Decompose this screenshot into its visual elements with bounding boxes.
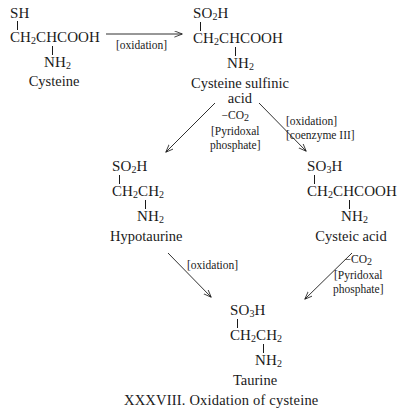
- label-cysteine-to-sulfinic: [oxidation]: [116, 38, 167, 52]
- hypotaurine-amine-sub: 2: [159, 215, 164, 226]
- sulfinic-sulfinyl-group: SO2H: [193, 6, 289, 22]
- cysteine-bond-thiol: [10, 21, 100, 30]
- taurine-label: Taurine: [228, 373, 282, 388]
- sulfinic-top-suffix: H: [217, 5, 228, 21]
- co2-sub-right: 2: [367, 256, 372, 267]
- cysteic-backbone-suffix: CHCOOH: [333, 183, 397, 199]
- co2-prefix-left: −CO: [222, 109, 244, 121]
- taurine-amine: NH2: [230, 353, 282, 369]
- compound-cysteine: SH CH2CHCOOH NH2 Cysteine: [10, 6, 100, 89]
- cysteine-backbone-prefix: CH: [10, 29, 31, 45]
- taurine-amine-sub: 2: [277, 359, 282, 370]
- taurine-top-prefix: SO: [230, 302, 249, 318]
- sulfinic-label-line1: Cysteine sulfinic: [191, 76, 289, 91]
- sulfinic-backbone-suffix: CHCOOH: [219, 30, 283, 46]
- label-hypotaurine-to-taurine: [oxidation]: [187, 258, 238, 272]
- hypotaurine-backbone-prefix: CH: [112, 183, 133, 199]
- cysteic-top-prefix: SO: [307, 158, 326, 174]
- label-phosphate-left: phosphate]: [210, 138, 260, 152]
- hypotaurine-label: Hypotaurine: [110, 229, 182, 244]
- hypotaurine-bond-amine: [112, 200, 182, 209]
- sulfinic-top-prefix: SO: [193, 5, 212, 21]
- cysteic-sulfonyl-group: SO3H: [307, 159, 397, 175]
- sulfinic-amine: NH2: [193, 56, 289, 72]
- cysteic-amine: NH2: [307, 209, 397, 225]
- sulfinic-amine-sub: 2: [249, 62, 254, 73]
- caption-text: Oxidation of cysteine: [189, 392, 318, 408]
- cysteine-label: Cysteine: [8, 74, 100, 89]
- arrow-sulfinic-to-hypotaurine: [166, 103, 215, 152]
- hypotaurine-backbone: CH2CH2: [112, 184, 182, 200]
- co2-sub-left: 2: [244, 112, 249, 123]
- label-sulfinic-to-hypotaurine: −CO2 [Pyridoxal phosphate]: [210, 108, 260, 152]
- cysteine-backbone-suffix: CHCOOH: [36, 29, 100, 45]
- hypotaurine-bond-top: [112, 175, 182, 184]
- label-co2-line1-left: −CO2: [222, 109, 249, 121]
- cysteic-bond-top: [307, 175, 397, 184]
- hypotaurine-backbone-mid: CH: [138, 183, 159, 199]
- sulfinic-label-line2: acid: [191, 91, 289, 106]
- cysteic-backbone: CH2CHCOOH: [307, 184, 397, 200]
- cysteine-thiol-group: SH: [10, 6, 100, 21]
- figure-caption: XXXVIII. Oxidation of cysteine: [124, 392, 318, 409]
- taurine-bond-amine: [230, 344, 282, 353]
- label-oxidation-coenzyme-line2: [coenzyme III]: [286, 128, 355, 142]
- taurine-sulfonyl-group: SO3H: [230, 303, 282, 319]
- label-oxidation-coenzyme-line1: [oxidation]: [286, 115, 337, 127]
- sulfinic-bond-amine: [193, 47, 289, 56]
- cysteic-top-suffix: H: [331, 158, 342, 174]
- cysteine-bond-amine: [10, 46, 100, 55]
- cysteine-amine: NH2: [10, 55, 100, 71]
- label-pyridoxal-right: [Pyridoxal: [333, 268, 383, 282]
- sulfinic-backbone-prefix: CH: [193, 30, 214, 46]
- taurine-bond-top: [230, 319, 282, 328]
- hypotaurine-amine-prefix: NH: [137, 208, 159, 224]
- label-sulfinic-to-cysteic: [oxidation] [coenzyme III]: [286, 114, 355, 142]
- label-cysteic-to-taurine: −CO2 [Pyridoxal phosphate]: [333, 252, 383, 296]
- cysteic-backbone-prefix: CH: [307, 183, 328, 199]
- compound-taurine: SO3H CH2CH2 NH2 Taurine: [230, 303, 282, 387]
- cysteine-amine-sub: 2: [66, 60, 71, 71]
- cysteine-backbone: CH2CHCOOH: [10, 30, 100, 46]
- taurine-backbone: CH2CH2: [230, 328, 282, 344]
- cysteic-amine-prefix: NH: [341, 208, 363, 224]
- hypotaurine-backbone-sub2: 2: [159, 189, 164, 200]
- cysteine-amine-prefix: NH: [44, 54, 66, 70]
- sulfinic-bond-top: [193, 22, 289, 31]
- label-co2-line1-right: −CO2: [345, 253, 372, 265]
- taurine-backbone-sub2: 2: [277, 333, 282, 344]
- compound-cysteine-sulfinic-acid: SO2H CH2CHCOOH NH2 Cysteine sulfinic aci…: [193, 6, 289, 106]
- cysteic-bond-amine: [307, 200, 397, 209]
- taurine-backbone-mid: CH: [256, 327, 277, 343]
- cysteic-label: Cysteic acid: [305, 229, 397, 244]
- compound-hypotaurine: SO2H CH2CH2 NH2 Hypotaurine: [112, 159, 182, 243]
- hypotaurine-sulfinyl-group: SO2H: [112, 159, 182, 175]
- co2-prefix-right: −CO: [345, 253, 367, 265]
- taurine-amine-prefix: NH: [255, 352, 277, 368]
- hypotaurine-amine: NH2: [112, 209, 182, 225]
- caption-number: XXXVIII.: [124, 392, 186, 408]
- taurine-backbone-prefix: CH: [230, 327, 251, 343]
- label-pyridoxal-left: [Pyridoxal: [210, 124, 260, 138]
- compound-cysteic-acid: SO3H CH2CHCOOH NH2 Cysteic acid: [307, 159, 397, 243]
- hypotaurine-top-suffix: H: [136, 158, 147, 174]
- sulfinic-amine-prefix: NH: [227, 55, 249, 71]
- taurine-top-suffix: H: [254, 302, 265, 318]
- hypotaurine-top-prefix: SO: [112, 158, 131, 174]
- sulfinic-backbone: CH2CHCOOH: [193, 31, 289, 47]
- label-phosphate-right: phosphate]: [333, 282, 383, 296]
- cysteic-amine-sub: 2: [363, 215, 368, 226]
